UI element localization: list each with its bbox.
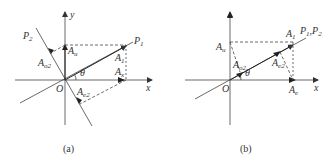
theta-label-a: θ [80, 68, 85, 78]
theta-arc-a [75, 75, 76, 80]
origin-label-a: O [56, 84, 63, 94]
p1-label-a: P1 [134, 36, 144, 48]
y-axis-label-a: y [70, 10, 74, 20]
ax-label-a: Ax [115, 67, 124, 79]
a1-label-a: A1 [115, 53, 125, 65]
panel-b [185, 12, 318, 125]
ae2-label-a: Ae2 [77, 87, 90, 99]
p12-label-b: P1,P2 [300, 26, 322, 38]
x-axis-label-a: x [146, 83, 150, 93]
ae-label-b: Ae [289, 85, 298, 97]
ao2-label-b: Ao2 [233, 60, 246, 72]
caption-b: (b) [240, 144, 252, 154]
origin-label-b: O [222, 84, 229, 94]
au-label-b: Au [216, 42, 226, 54]
ae2-label-b: Ae2 [272, 58, 285, 70]
x-axis-label-b: x [314, 83, 318, 93]
ae-arrow-b [289, 77, 296, 83]
ao2-label-a: Ao2 [38, 58, 51, 70]
a1-label-b: A1 [286, 29, 296, 41]
diagram-canvas [0, 0, 334, 166]
caption-a: (a) [63, 144, 74, 154]
au-label-a: Au [68, 46, 78, 58]
p2-label-a: P2 [23, 31, 33, 43]
